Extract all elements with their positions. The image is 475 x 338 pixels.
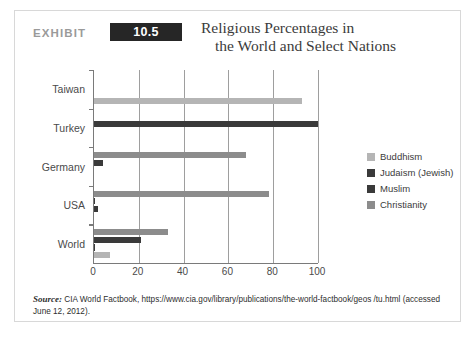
exhibit-card: EXHIBIT 10.5 Religious Percentages in th…: [14, 10, 461, 322]
chart-bar: [94, 252, 110, 258]
chart-bar: [94, 237, 141, 243]
legend-item[interactable]: Judaism (Jewish): [367, 165, 467, 180]
chart-bar: [94, 229, 168, 235]
x-tick-label: 80: [267, 266, 278, 277]
legend-label: Christianity: [380, 199, 427, 210]
legend-item[interactable]: Christianity: [367, 197, 467, 212]
source-note: Source: CIA World Factbook, https://www.…: [33, 293, 448, 318]
title-line-2: the World and Select Nations: [201, 37, 451, 55]
title-line-1: Religious Percentages in: [201, 19, 354, 36]
x-tick-label: 60: [222, 266, 233, 277]
x-axis-line: [93, 263, 318, 264]
legend-label: Buddhism: [380, 151, 422, 162]
legend-item[interactable]: Muslim: [367, 181, 467, 196]
x-tick-label: 100: [309, 266, 326, 277]
legend-label: Muslim: [380, 183, 410, 194]
legend-swatch-icon: [367, 201, 375, 209]
y-axis-category-label: Germany: [42, 161, 85, 173]
exhibit-label: EXHIBIT: [33, 27, 86, 39]
chart-bar: [94, 244, 95, 250]
chart-bar: [94, 191, 269, 197]
x-tick-label: 0: [90, 266, 96, 277]
y-axis-category-label: USA: [63, 199, 85, 211]
source-text: CIA World Factbook, https://www.cia.gov/…: [33, 295, 440, 316]
chart-legend: BuddhismJudaism (Jewish)MuslimChristiani…: [367, 149, 467, 213]
chart-bar: [94, 98, 302, 104]
exhibit-number-badge: 10.5: [110, 23, 182, 41]
y-axis-category-label: Turkey: [53, 122, 85, 134]
legend-item[interactable]: Buddhism: [367, 149, 467, 164]
chart-bar: [94, 198, 95, 204]
y-axis-tick: [89, 224, 94, 225]
legend-swatch-icon: [367, 169, 375, 177]
legend-swatch-icon: [367, 153, 375, 161]
y-axis-tick: [89, 186, 94, 187]
x-tick-label: 20: [132, 266, 143, 277]
y-axis-category-label: World: [58, 238, 85, 250]
chart-bar: [94, 206, 98, 212]
chart-bar: [94, 152, 246, 158]
page-title: Religious Percentages in the World and S…: [201, 19, 451, 55]
source-label: Source:: [33, 294, 62, 304]
chart-plot-area: TaiwanTurkeyGermanyUSAWorld: [93, 70, 318, 263]
legend-swatch-icon: [367, 185, 375, 193]
y-axis-tick: [89, 109, 94, 110]
y-axis-category-label: Taiwan: [52, 83, 85, 95]
y-axis-tick: [89, 70, 94, 71]
gridline: [318, 70, 319, 263]
y-axis-tick: [89, 147, 94, 148]
chart-bar: [94, 160, 103, 166]
legend-label: Judaism (Jewish): [380, 167, 453, 178]
x-tick-label: 40: [177, 266, 188, 277]
chart-bar: [94, 121, 318, 127]
exhibit-header: EXHIBIT 10.5 Religious Percentages in th…: [15, 11, 460, 63]
